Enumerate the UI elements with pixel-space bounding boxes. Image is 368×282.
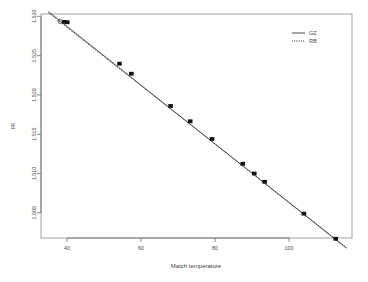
y-axis-tick-label: 1.530 [31,10,37,24]
ri-vs-match-temperature-scatter-plot: 1.5301.5251.5201.5151.5101.505 406080100… [0,0,368,282]
y-axis-tick-label: 1.520 [31,88,37,102]
x-axis-tick-label: 60 [138,245,144,251]
data-point-marker [188,119,193,123]
y-axis-tick-label: 1.510 [31,167,37,181]
x-axis: 406080100 [64,238,294,251]
data-point-marker [210,137,215,141]
x-axis-tick-label: 80 [212,245,218,251]
y-axis-tick-label: 1.505 [31,206,37,220]
y-axis-tick-label: 1.525 [31,49,37,63]
data-point-marker [333,237,338,241]
data-point-marker [129,72,134,76]
y-axis-title: RI [10,123,16,129]
y-axis-tick-label: 1.515 [31,128,37,142]
x-axis-tick-label: 40 [64,245,70,251]
data-point-marker [117,62,122,66]
x-axis-title: Match temperature [171,263,222,269]
legend-label-rb: RB [309,38,317,44]
plot-area-border [41,14,352,238]
data-point-marker [262,180,267,184]
data-point-marker [240,162,245,166]
data-point-marker [168,104,173,108]
chart-container: 1.5301.5251.5201.5151.5101.505 406080100… [0,0,368,282]
data-point-marker [252,172,257,176]
data-point-marker [302,212,307,216]
x-axis-tick-label: 100 [285,245,294,251]
y-axis: 1.5301.5251.5201.5151.5101.505 [31,10,41,220]
plot-frame [41,14,352,238]
legend-label-gz: GZ [309,30,317,36]
legend: GZRB [292,30,317,44]
data-point-marker [65,20,70,24]
